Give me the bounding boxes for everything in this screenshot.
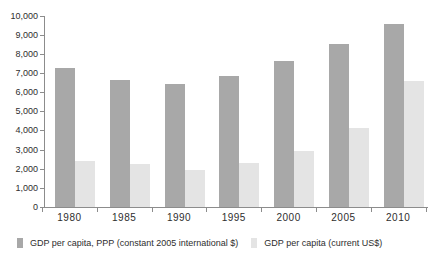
legend-item-gdp-ppp: GDP per capita, PPP (constant 2005 inter… <box>17 238 238 248</box>
x-axis-tick-label: 1995 <box>209 212 259 223</box>
y-tick <box>40 16 44 17</box>
x-tick <box>206 208 207 212</box>
bar-current-1980 <box>75 161 95 207</box>
x-axis-tick-label: 2010 <box>373 212 423 223</box>
x-tick <box>426 208 427 212</box>
y-tick <box>40 111 44 112</box>
x-tick <box>371 208 372 212</box>
y-axis-tick-label: 10,000 <box>0 11 38 21</box>
x-tick <box>42 208 43 212</box>
legend-swatch-gdp-ppp <box>17 238 23 248</box>
bar-current-1995 <box>239 163 259 207</box>
y-axis-tick-label: 4,000 <box>0 125 38 135</box>
gdp-per-capita-bar-chart: 01,0002,0003,0004,0005,0006,0007,0008,00… <box>0 0 431 255</box>
y-axis-tick-label: 1,000 <box>0 183 38 193</box>
y-tick <box>40 169 44 170</box>
y-axis-tick-label: 3,000 <box>0 145 38 155</box>
bar-ppp-2005 <box>329 44 349 207</box>
bar-ppp-2000 <box>274 61 294 207</box>
x-axis-tick-label: 2000 <box>264 212 314 223</box>
y-tick <box>40 188 44 189</box>
x-axis-tick-label: 2005 <box>318 212 368 223</box>
x-axis-tick-label: 1985 <box>99 212 149 223</box>
x-tick <box>152 208 153 212</box>
y-axis-tick-label: 8,000 <box>0 49 38 59</box>
bar-ppp-1990 <box>165 84 185 207</box>
x-axis-tick-label: 1980 <box>44 212 94 223</box>
y-tick <box>40 73 44 74</box>
bar-current-2010 <box>404 81 424 207</box>
bar-current-2005 <box>349 128 369 207</box>
y-axis-tick-label: 0 <box>0 202 38 212</box>
legend-label-gdp-ppp: GDP per capita, PPP (constant 2005 inter… <box>30 238 238 248</box>
y-axis-tick-label: 6,000 <box>0 87 38 97</box>
y-axis-tick-label: 2,000 <box>0 164 38 174</box>
y-axis-tick-label: 5,000 <box>0 106 38 116</box>
bar-current-1985 <box>130 164 150 207</box>
legend-label-gdp-current: GDP per capita (current US$) <box>264 238 382 248</box>
y-tick <box>40 130 44 131</box>
chart-legend: GDP per capita, PPP (constant 2005 inter… <box>17 238 382 248</box>
y-tick <box>40 92 44 93</box>
x-axis-tick-label: 1990 <box>154 212 204 223</box>
y-axis-line <box>44 16 45 208</box>
legend-item-gdp-current: GDP per capita (current US$) <box>251 238 382 248</box>
bar-ppp-1980 <box>55 68 75 207</box>
y-tick <box>40 150 44 151</box>
y-axis-tick-label: 7,000 <box>0 68 38 78</box>
y-tick <box>40 35 44 36</box>
x-tick <box>316 208 317 212</box>
y-axis-tick-label: 9,000 <box>0 30 38 40</box>
bar-ppp-2010 <box>384 24 404 207</box>
legend-swatch-gdp-current <box>251 238 257 248</box>
bar-ppp-1995 <box>219 76 239 207</box>
plot-area: 01,0002,0003,0004,0005,0006,0007,0008,00… <box>0 0 431 255</box>
bar-current-2000 <box>294 151 314 207</box>
bar-current-1990 <box>185 170 205 207</box>
x-tick <box>97 208 98 212</box>
x-tick <box>261 208 262 212</box>
bar-ppp-1985 <box>110 80 130 207</box>
y-tick <box>40 54 44 55</box>
x-axis-line <box>41 207 428 208</box>
